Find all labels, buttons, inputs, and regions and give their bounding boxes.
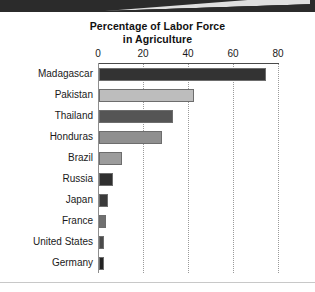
bar-row: Madagascar bbox=[0, 64, 315, 85]
bar-row: France bbox=[0, 211, 315, 232]
bar-label-russia: Russia bbox=[62, 173, 93, 184]
bar-row: Honduras bbox=[0, 127, 315, 148]
bar-japan bbox=[99, 194, 108, 207]
bar-rows: MadagascarPakistanThailandHondurasBrazil… bbox=[0, 64, 315, 274]
bottom-strip bbox=[0, 283, 315, 292]
plot-area: 020406080 MadagascarPakistanThailandHond… bbox=[0, 12, 315, 280]
bar-label-madagascar: Madagascar bbox=[38, 68, 93, 79]
bar-label-pakistan: Pakistan bbox=[55, 89, 93, 100]
bar-france bbox=[99, 215, 106, 228]
bar-germany bbox=[99, 257, 104, 270]
bar-label-thailand: Thailand bbox=[55, 110, 93, 121]
x-tick-label-80: 80 bbox=[272, 48, 283, 59]
bar-label-united-states: United States bbox=[33, 236, 93, 247]
bar-label-germany: Germany bbox=[52, 257, 93, 268]
bar-pakistan bbox=[99, 89, 194, 102]
bar-madagascar bbox=[99, 68, 266, 81]
bar-thailand bbox=[99, 110, 173, 123]
bar-row: Brazil bbox=[0, 148, 315, 169]
bar-label-japan: Japan bbox=[66, 194, 93, 205]
x-tick-label-60: 60 bbox=[227, 48, 238, 59]
chart-page: Percentage of Labor Force in Agriculture… bbox=[0, 12, 315, 280]
bar-label-brazil: Brazil bbox=[68, 152, 93, 163]
x-tick-label-40: 40 bbox=[182, 48, 193, 59]
bar-row: Russia bbox=[0, 169, 315, 190]
bar-label-honduras: Honduras bbox=[50, 131, 93, 142]
bar-honduras bbox=[99, 131, 162, 144]
bar-label-france: France bbox=[62, 215, 93, 226]
bar-brazil bbox=[99, 152, 122, 165]
bar-russia bbox=[99, 173, 113, 186]
x-tick-label-0: 0 bbox=[95, 48, 101, 59]
bar-row: Japan bbox=[0, 190, 315, 211]
x-axis-tick-labels: 020406080 bbox=[0, 48, 315, 60]
banner-diagonal-sliver bbox=[105, 0, 310, 11]
bar-row: Germany bbox=[0, 253, 315, 274]
bar-row: Pakistan bbox=[0, 85, 315, 106]
top-banner bbox=[0, 0, 315, 12]
x-tick-label-20: 20 bbox=[137, 48, 148, 59]
bar-row: United States bbox=[0, 232, 315, 253]
bar-united-states bbox=[99, 236, 104, 249]
bar-row: Thailand bbox=[0, 106, 315, 127]
